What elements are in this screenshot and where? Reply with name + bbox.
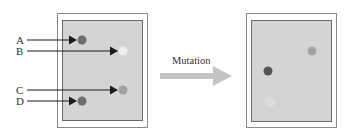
spot-mutant-3 [266, 98, 275, 107]
spot-mutant-2 [264, 67, 273, 76]
spot-c [119, 86, 128, 95]
label-d: D [16, 95, 24, 107]
spot-d [78, 97, 87, 106]
spot-b [119, 47, 128, 56]
left-panel [63, 21, 143, 121]
label-b: B [16, 45, 23, 57]
mutation-label: Mutation [172, 55, 211, 66]
spot-a [78, 36, 87, 45]
mutation-arrow-icon [160, 66, 232, 86]
spot-mutant-1 [308, 47, 317, 56]
mutation-diagram: A B C D Mutation [0, 0, 345, 133]
